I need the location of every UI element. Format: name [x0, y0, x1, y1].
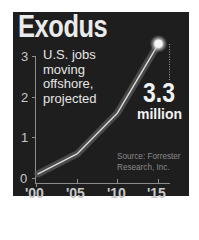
- svg-text:0: 0: [20, 171, 27, 186]
- svg-text:2: 2: [21, 90, 28, 105]
- source-line: Research, Inc.: [117, 161, 181, 172]
- svg-text:3: 3: [21, 49, 28, 64]
- svg-text:'10: '10: [107, 185, 126, 201]
- y-tick-labels: 3 2 1 0: [20, 49, 28, 186]
- svg-text:'05: '05: [66, 185, 85, 201]
- svg-text:'00: '00: [25, 185, 44, 201]
- svg-text:1: 1: [21, 130, 28, 145]
- source-line: Source: Forrester: [117, 150, 181, 161]
- svg-text:'15: '15: [147, 185, 166, 201]
- annotation-unit: million: [137, 106, 182, 122]
- x-tick-labels: '00 '05 '10 '15: [25, 185, 166, 201]
- annotation-value: 3.3: [143, 79, 175, 107]
- end-point-dot: [155, 40, 163, 48]
- source-note: Source: Forrester Research, Inc.: [117, 150, 181, 172]
